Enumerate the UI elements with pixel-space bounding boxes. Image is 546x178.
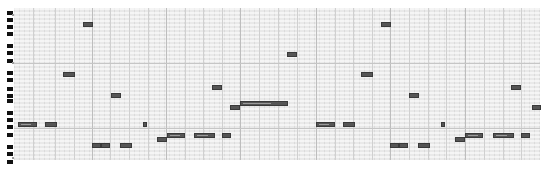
midi-note[interactable]: [167, 133, 185, 138]
midi-note[interactable]: [101, 143, 110, 148]
midi-note[interactable]: [157, 137, 167, 142]
beat-line: [110, 8, 111, 160]
beat-line: [278, 8, 279, 160]
midi-note[interactable]: [521, 133, 530, 138]
piano-roll-editor: [0, 0, 546, 178]
bar-line: [390, 8, 391, 160]
midi-note[interactable]: [441, 122, 445, 127]
midi-note[interactable]: [111, 93, 121, 98]
black-key[interactable]: [7, 32, 13, 36]
black-key[interactable]: [7, 94, 13, 98]
beat-line: [33, 8, 34, 160]
beat-line: [484, 8, 485, 160]
midi-note[interactable]: [343, 122, 355, 127]
beat-line: [335, 8, 336, 160]
beat-line: [55, 8, 56, 160]
note-label: [197, 135, 208, 136]
note-grid[interactable]: [14, 8, 540, 160]
midi-note[interactable]: [83, 22, 93, 27]
beat-line: [372, 8, 373, 160]
beat-line: [148, 8, 149, 160]
midi-note[interactable]: [381, 22, 391, 27]
note-label: [170, 135, 180, 136]
black-key[interactable]: [7, 160, 13, 164]
beat-line: [409, 8, 410, 160]
note-label: [319, 124, 329, 125]
midi-note[interactable]: [222, 133, 231, 138]
black-key[interactable]: [7, 78, 13, 82]
midi-note[interactable]: [361, 72, 373, 77]
midi-note[interactable]: [63, 72, 75, 77]
black-key[interactable]: [7, 133, 13, 137]
midi-note[interactable]: [493, 133, 514, 138]
note-label: [243, 103, 271, 104]
midi-note[interactable]: [287, 52, 297, 57]
black-key[interactable]: [7, 18, 13, 22]
beat-line: [129, 8, 130, 160]
note-label: [468, 135, 478, 136]
midi-note[interactable]: [194, 133, 215, 138]
midi-note[interactable]: [240, 101, 288, 106]
midi-note[interactable]: [230, 105, 240, 110]
bar-line: [316, 8, 317, 160]
beat-line: [259, 8, 260, 160]
black-key[interactable]: [7, 71, 13, 75]
midi-note[interactable]: [532, 105, 541, 110]
bar-line: [92, 8, 93, 160]
midi-note[interactable]: [511, 85, 521, 90]
midi-note[interactable]: [418, 143, 430, 148]
black-key[interactable]: [7, 145, 13, 149]
beat-line: [74, 8, 75, 160]
midi-note[interactable]: [120, 143, 132, 148]
octave-line: [14, 63, 540, 64]
beat-line: [446, 8, 447, 160]
black-key[interactable]: [7, 51, 13, 55]
piano-keyboard[interactable]: [0, 8, 13, 160]
black-key[interactable]: [7, 25, 13, 29]
midi-note[interactable]: [212, 85, 222, 90]
black-key[interactable]: [7, 87, 13, 91]
beat-line: [185, 8, 186, 160]
note-label: [21, 124, 31, 125]
midi-note[interactable]: [18, 122, 37, 127]
midi-note[interactable]: [409, 93, 419, 98]
black-key[interactable]: [7, 44, 13, 48]
bar-line: [240, 8, 241, 160]
midi-note[interactable]: [45, 122, 57, 127]
midi-note[interactable]: [390, 143, 399, 148]
black-key[interactable]: [7, 111, 13, 115]
midi-note[interactable]: [455, 137, 465, 142]
black-key[interactable]: [7, 99, 13, 103]
midi-note[interactable]: [92, 143, 101, 148]
midi-note[interactable]: [143, 122, 147, 127]
midi-note[interactable]: [316, 122, 335, 127]
black-key[interactable]: [7, 152, 13, 156]
midi-note[interactable]: [465, 133, 483, 138]
midi-note[interactable]: [399, 143, 408, 148]
beat-line: [428, 8, 429, 160]
note-label: [496, 135, 507, 136]
octave-line: [14, 128, 540, 129]
beat-line: [297, 8, 298, 160]
black-key[interactable]: [7, 125, 13, 129]
beat-line: [353, 8, 354, 160]
black-key[interactable]: [7, 118, 13, 122]
